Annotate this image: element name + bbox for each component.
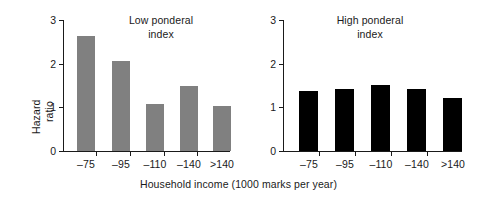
bar-high-2 xyxy=(371,85,390,151)
y-axis-line-left xyxy=(63,20,64,152)
x-tick-label-left-4: >140 xyxy=(202,158,242,170)
panel-low-ponderal-index: Low ponderal index 0 1 2 3 –75 –95 –110 … xyxy=(0,0,240,201)
panel-title-low: Low ponderal index xyxy=(96,14,226,41)
x-axis-label: Household income (1000 marks per year) xyxy=(0,178,477,190)
bar-high-3 xyxy=(407,89,426,151)
bar-high-0 xyxy=(299,91,318,151)
x-tick-label-right-4: >140 xyxy=(433,158,473,170)
x-tick-left-1 xyxy=(130,152,131,156)
y-tick-left-1 xyxy=(59,107,63,108)
y-tick-label-right-1: 1 xyxy=(260,101,276,113)
x-tick-right-3 xyxy=(427,152,428,156)
y-tick-label-right-2: 2 xyxy=(260,58,276,70)
bar-high-1 xyxy=(335,89,354,151)
x-tick-right-2 xyxy=(391,152,392,156)
y-tick-right-0 xyxy=(279,151,283,152)
y-tick-right-1 xyxy=(279,107,283,108)
bar-low-4 xyxy=(213,106,231,151)
x-tick-label-right-0: –75 xyxy=(289,158,329,170)
y-tick-right-2 xyxy=(279,64,283,65)
x-tick-right-1 xyxy=(355,152,356,156)
y-tick-label-right-0: 0 xyxy=(260,145,276,157)
panel-title-high: High ponderal index xyxy=(304,14,436,41)
y-tick-left-0 xyxy=(59,151,63,152)
bar-low-1 xyxy=(112,61,130,151)
bar-low-0 xyxy=(77,36,95,151)
x-tick-left-2 xyxy=(164,152,165,156)
x-tick-label-right-2: –110 xyxy=(361,158,401,170)
y-tick-label-left-3: 3 xyxy=(40,14,56,26)
x-tick-right-0 xyxy=(319,152,320,156)
bar-low-2 xyxy=(146,104,164,151)
y-tick-left-2 xyxy=(59,64,63,65)
y-tick-right-3 xyxy=(279,20,283,21)
bar-high-4 xyxy=(443,98,462,151)
y-tick-label-left-1: 1 xyxy=(40,101,56,113)
y-tick-label-left-2: 2 xyxy=(40,58,56,70)
y-tick-left-3 xyxy=(59,20,63,21)
x-tick-label-right-3: –140 xyxy=(397,158,437,170)
bar-low-3 xyxy=(180,86,198,151)
x-axis-line-left xyxy=(63,151,230,152)
y-tick-label-left-0: 0 xyxy=(40,145,56,157)
x-tick-left-3 xyxy=(197,152,198,156)
x-axis-line-right xyxy=(283,151,462,152)
panel-high-ponderal-index: High ponderal index 0 1 2 3 –75 –95 –110… xyxy=(240,0,477,201)
x-tick-label-left-0: –75 xyxy=(66,158,106,170)
y-tick-label-right-3: 3 xyxy=(260,14,276,26)
x-tick-left-0 xyxy=(96,152,97,156)
x-tick-label-right-1: –95 xyxy=(325,158,365,170)
hazard-ratio-chart-figure: Hazard ratio Low ponderal index 0 1 2 3 … xyxy=(0,0,477,201)
y-axis-line-right xyxy=(283,20,284,152)
